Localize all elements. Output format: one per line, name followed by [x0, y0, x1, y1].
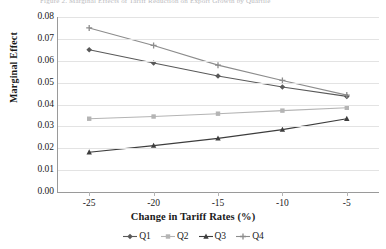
data-point [215, 62, 221, 68]
data-point [86, 25, 92, 31]
data-point [86, 47, 92, 53]
gridline [57, 17, 379, 18]
legend-marker-icon [235, 232, 251, 241]
data-point [151, 114, 155, 118]
gridline [57, 148, 379, 149]
data-point [344, 92, 350, 98]
series-line [89, 119, 347, 152]
data-point [166, 234, 170, 238]
x-tick [89, 192, 90, 196]
legend-item-q3[interactable]: Q3 [198, 231, 227, 241]
legend-label: Q1 [139, 231, 151, 241]
y-tick-label: 0.00 [8, 187, 54, 197]
data-point [216, 111, 220, 115]
y-tick-label: 0.02 [8, 143, 54, 153]
x-tick-label: -10 [262, 198, 302, 209]
data-point [345, 106, 349, 110]
x-axis-title: Change in Tariff Rates (%) [0, 211, 386, 222]
legend-label: Q3 [215, 231, 227, 241]
y-tick-label: 0.03 [8, 121, 54, 131]
gridline [57, 39, 379, 40]
figure-caption: Figure 2. Marginal Effects of Tariff Red… [40, 0, 386, 5]
legend-item-q1[interactable]: Q1 [122, 231, 151, 241]
y-tick-label: 0.05 [8, 78, 54, 88]
gridline [57, 83, 379, 84]
data-point [151, 42, 157, 48]
gridline [57, 61, 379, 62]
y-tick-label: 0.06 [8, 56, 54, 66]
series-line [89, 50, 347, 97]
data-point [280, 108, 284, 112]
x-tick-label: -25 [69, 198, 109, 209]
gridline [57, 126, 379, 127]
legend-item-q4[interactable]: Q4 [235, 231, 264, 241]
y-tick-label: 0.08 [8, 12, 54, 22]
x-tick [347, 192, 348, 196]
legend-item-q2[interactable]: Q2 [160, 231, 189, 241]
y-tick-label: 0.01 [8, 165, 54, 175]
series-q1 [86, 47, 349, 99]
y-tick-label: 0.07 [8, 34, 54, 44]
x-tick-label: -5 [327, 198, 367, 209]
x-tick [154, 192, 155, 196]
y-tick-label: 0.04 [8, 100, 54, 110]
x-axis-tick-labels: -25-20-15-10-5 [0, 198, 386, 212]
legend-label: Q2 [177, 231, 189, 241]
series-q2 [87, 106, 349, 121]
y-axis-line [57, 17, 58, 193]
data-point [240, 233, 246, 239]
legend-label: Q4 [252, 231, 264, 241]
chart-legend: Q1Q2Q3Q4 [0, 231, 386, 241]
data-point [215, 73, 221, 79]
data-point [127, 233, 133, 239]
legend-marker-icon [198, 232, 214, 241]
data-point [344, 116, 349, 121]
x-tick-label: -15 [198, 198, 238, 209]
legend-marker-icon [122, 232, 138, 241]
figure-container: Figure 2. Marginal Effects of Tariff Red… [0, 0, 386, 249]
x-tick [218, 192, 219, 196]
plot-area [57, 17, 379, 192]
gridline [57, 105, 379, 106]
gridline [57, 170, 379, 171]
x-tick-label: -20 [134, 198, 174, 209]
data-point [280, 84, 286, 90]
x-tick [282, 192, 283, 196]
data-point [87, 117, 91, 121]
legend-marker-icon [160, 232, 176, 241]
